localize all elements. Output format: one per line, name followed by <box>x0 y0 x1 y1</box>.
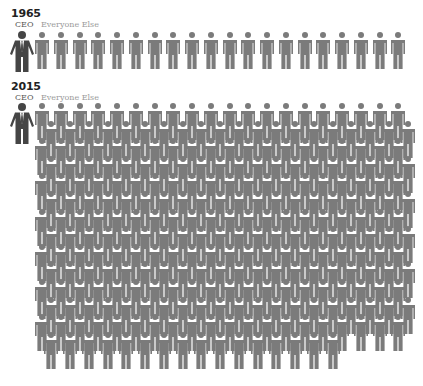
person-icon <box>165 32 181 70</box>
year-label-1965: 1965 <box>11 7 41 20</box>
person-icon <box>287 332 303 370</box>
person-icon <box>231 332 247 370</box>
person-icon <box>184 32 200 70</box>
person-icon <box>297 32 313 70</box>
person-icon <box>62 332 78 370</box>
person-icon <box>372 314 388 352</box>
person-icon <box>137 332 153 370</box>
person-icon <box>90 32 106 70</box>
person-icon <box>72 32 88 70</box>
ceo-icon-1965 <box>9 31 35 73</box>
person-icon <box>334 32 350 70</box>
person-icon <box>390 314 406 352</box>
person-icon <box>315 32 331 70</box>
person-icon <box>128 32 144 70</box>
person-icon <box>259 32 275 70</box>
person-icon <box>43 332 59 370</box>
person-icon <box>175 332 191 370</box>
person-icon <box>156 332 172 370</box>
person-icon <box>81 332 97 370</box>
person-icon <box>109 32 125 70</box>
person-icon <box>147 32 163 70</box>
person-icon <box>222 32 238 70</box>
person-icon <box>325 332 341 370</box>
person-icon <box>118 332 134 370</box>
ceo-label-1965: CEO <box>15 20 34 29</box>
person-icon <box>193 332 209 370</box>
person-icon <box>372 32 388 70</box>
person-icon <box>250 332 266 370</box>
person-icon <box>306 332 322 370</box>
person-icon <box>53 32 69 70</box>
person-icon <box>240 32 256 70</box>
person-icon <box>203 32 219 70</box>
person-icon <box>100 332 116 370</box>
person-icon <box>353 32 369 70</box>
ceo-icon-2015 <box>9 103 35 145</box>
person-icon <box>212 332 228 370</box>
year-label-2015: 2015 <box>11 80 41 93</box>
person-icon <box>353 314 369 352</box>
everyone-else-label-1965: Everyone Else <box>41 20 99 29</box>
person-icon <box>268 332 284 370</box>
ceo-label-2015: CEO <box>15 93 34 102</box>
person-icon <box>34 32 50 70</box>
everyone-else-label-2015: Everyone Else <box>41 93 99 102</box>
person-icon <box>390 32 406 70</box>
person-icon <box>278 32 294 70</box>
